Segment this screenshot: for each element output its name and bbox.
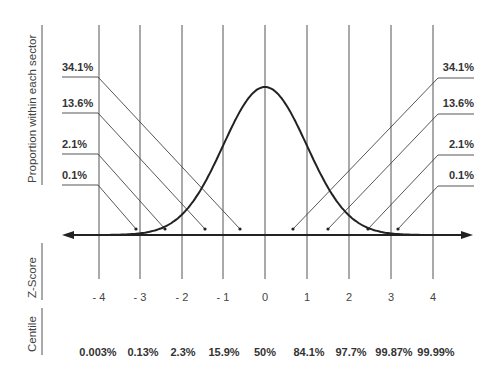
svg-text:- 1: - 1 (217, 291, 230, 303)
svg-text:3: 3 (388, 291, 394, 303)
right-pct-0: 0.1% (449, 169, 474, 181)
svg-text:- 3: - 3 (134, 291, 147, 303)
left-pct-13: 13.6% (62, 97, 93, 109)
left-pct-0: 0.1% (62, 169, 87, 181)
svg-text:15.9%: 15.9% (208, 346, 239, 358)
centile-label: Centile (26, 316, 38, 352)
svg-text:2: 2 (346, 291, 352, 303)
left-leader-dots (134, 227, 241, 230)
left-pct-34: 34.1% (62, 61, 93, 73)
zscore-label: Z-Score (26, 257, 38, 298)
right-pct-34: 34.1% (443, 61, 474, 73)
svg-text:97.7%: 97.7% (335, 346, 366, 358)
svg-text:0.003%: 0.003% (79, 346, 117, 358)
svg-text:- 4: - 4 (93, 291, 106, 303)
svg-text:0: 0 (262, 291, 268, 303)
svg-text:4: 4 (430, 291, 436, 303)
grid-lines (99, 25, 433, 279)
right-leader-dots (291, 227, 399, 230)
svg-text:0.13%: 0.13% (127, 346, 158, 358)
centile-labels: 0.003% 0.13% 2.3% 15.9% 50% 84.1% 97.7% … (79, 346, 455, 358)
svg-text:99.87%: 99.87% (375, 346, 413, 358)
svg-text:50%: 50% (254, 346, 276, 358)
normal-distribution-chart: Proportion within each sector Z-Score Ce… (0, 0, 497, 377)
arrow-right-icon (461, 231, 473, 239)
svg-text:99.99%: 99.99% (417, 346, 455, 358)
left-pct-2: 2.1% (62, 138, 87, 150)
svg-text:- 2: - 2 (176, 291, 189, 303)
y-axis-label: Proportion within each sector (26, 35, 38, 183)
arrow-left-icon (62, 231, 74, 239)
svg-text:1: 1 (304, 291, 310, 303)
right-pct-2: 2.1% (449, 138, 474, 150)
right-pct-13: 13.6% (443, 97, 474, 109)
svg-text:84.1%: 84.1% (293, 346, 324, 358)
z-tick-labels: - 4 - 3 - 2 - 1 0 1 2 3 4 (93, 291, 436, 303)
svg-text:2.3%: 2.3% (170, 346, 195, 358)
